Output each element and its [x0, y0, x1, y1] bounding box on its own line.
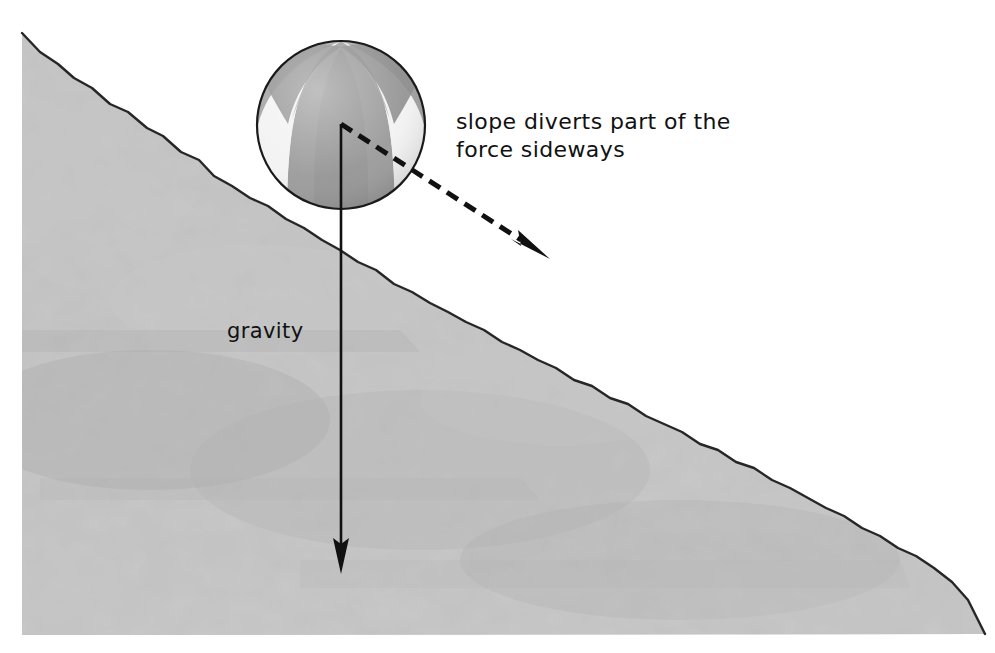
hill-slope: [0, 0, 995, 653]
callout-line-2: force sideways: [456, 136, 731, 164]
scene-graphics: [0, 0, 995, 653]
callout-line-1: slope diverts part of the: [456, 108, 731, 136]
callout-label: slope diverts part of the force sideways: [456, 108, 731, 164]
gravity-label: gravity: [227, 318, 304, 344]
diagram-canvas: slope diverts part of the force sideways…: [0, 0, 995, 653]
